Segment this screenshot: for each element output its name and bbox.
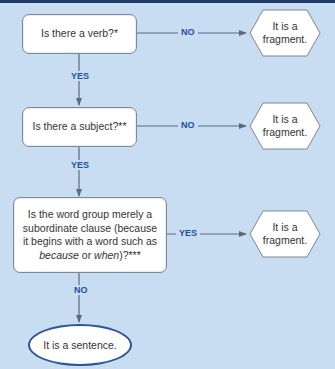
outcome-sentence: It is a sentence. bbox=[28, 324, 132, 366]
question-verb: Is there a verb?* bbox=[22, 14, 137, 54]
q3-line-3: it begins with a word such as bbox=[23, 235, 157, 249]
outcome-fragment-3: It is afragment. bbox=[249, 210, 321, 258]
label-q2-yes: YES bbox=[68, 160, 92, 170]
question-verb-text: Is there a verb?* bbox=[41, 27, 118, 41]
question-subject: Is there a subject?** bbox=[22, 107, 137, 147]
label-q3-yes: YES bbox=[176, 228, 200, 238]
question-subordinate-clause: Is the word group merely a subordinate c… bbox=[13, 197, 167, 273]
outcome-fragment-1: It is afragment. bbox=[249, 9, 321, 57]
label-q2-no: NO bbox=[178, 120, 198, 130]
label-q1-no: NO bbox=[178, 27, 198, 37]
q3-line-1: Is the word group merely a bbox=[28, 208, 152, 222]
outcome-sentence-text: It is a sentence. bbox=[43, 339, 117, 351]
q3-line-4: because or when)?*** bbox=[39, 249, 141, 263]
label-q3-no: NO bbox=[71, 285, 91, 295]
question-subject-text: Is there a subject?** bbox=[33, 120, 127, 134]
label-q1-yes: YES bbox=[68, 71, 92, 81]
outcome-fragment-2: It is afragment. bbox=[249, 102, 321, 150]
q3-line-2: subordinate clause (because bbox=[23, 222, 157, 236]
